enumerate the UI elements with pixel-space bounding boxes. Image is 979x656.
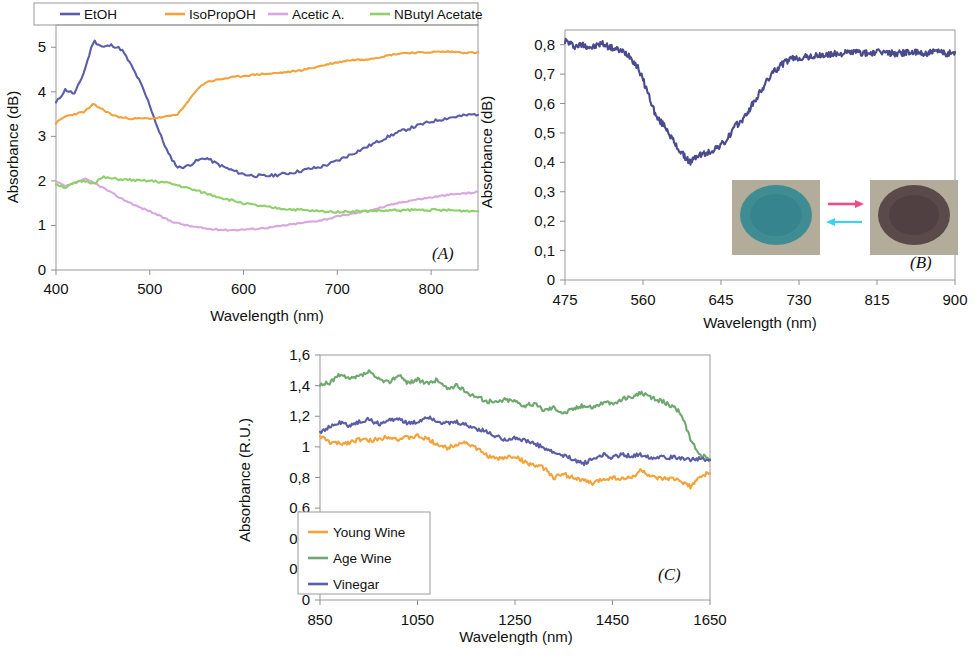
panel-a-ytick: 0 — [38, 261, 46, 278]
panel-c-xtick: 850 — [307, 611, 332, 628]
panel-b-xlabel: Wavelength (nm) — [703, 314, 817, 331]
panel-b-series-group — [565, 39, 955, 165]
panel-a-xtick: 600 — [231, 280, 256, 297]
panel-c-legend-label-1: Age Wine — [333, 551, 392, 566]
panel-a-plot-frame — [56, 25, 478, 270]
panel-a-legend-label-2: Acetic A. — [292, 7, 345, 22]
panel-a-series-2 — [56, 179, 478, 231]
panel-c-legend-label-0: Young Wine — [333, 525, 405, 540]
panel-a-frame — [56, 25, 478, 270]
panel-b-ytick: 0,1 — [534, 242, 555, 259]
panel-b-xtick: 900 — [942, 291, 967, 308]
panel-b-inset — [732, 180, 958, 255]
panel-b-ylabel: Absorbance (dB) — [478, 96, 495, 209]
panel-c-xtick: 1250 — [498, 611, 531, 628]
panel-c-ytick: 1,4 — [289, 377, 310, 394]
panel-c-ylabel: Absorbance (R.U.) — [236, 418, 253, 542]
panel-c-xtick: 1650 — [693, 611, 726, 628]
panel-a-legend-label-1: IsoPropOH — [189, 7, 256, 22]
panel-a-xtick: 500 — [137, 280, 162, 297]
panel-b-series-0 — [565, 39, 955, 165]
panel-a-series-group — [56, 41, 478, 231]
panel-b-svg: 47556064573081590000,10,20,30,40,50,60,7… — [470, 0, 979, 340]
panel-b-ytick: 0,4 — [534, 153, 555, 170]
forward-arrow-icon — [828, 200, 864, 208]
panel-a-series-0 — [56, 41, 478, 178]
panel-c-ytick: 0,8 — [289, 469, 310, 486]
panel-a-series-1 — [56, 51, 478, 123]
panel-a-xlabel: Wavelength (nm) — [210, 307, 324, 324]
panel-a-ytick: 5 — [38, 38, 46, 55]
panel-c-series-1 — [320, 370, 710, 461]
panel-a-ytick: 3 — [38, 127, 46, 144]
panel-a-chart: 400500600700800012345 (A) Wavelength (nm… — [0, 0, 490, 336]
panel-b-ytick: 0,5 — [534, 124, 555, 141]
panel-c-ytick: 1,2 — [289, 407, 310, 424]
panel-c-xlabel: Wavelength (nm) — [459, 628, 573, 645]
panel-b-chart: 47556064573081590000,10,20,30,40,50,60,7… — [470, 0, 979, 340]
panel-c-series-0 — [320, 434, 710, 488]
panel-c-xtick: 1450 — [596, 611, 629, 628]
panel-b-xtick: 730 — [786, 291, 811, 308]
reverse-arrow-icon — [826, 218, 862, 226]
panel-a-ytick: 2 — [38, 172, 46, 189]
panel-c-label: (C) — [658, 565, 681, 584]
panel-b-xtick: 815 — [864, 291, 889, 308]
panel-a-series-3 — [56, 176, 478, 212]
inset-left-sample-core — [750, 194, 802, 236]
panel-a-xtick: 400 — [43, 280, 68, 297]
panel-a-ylabel: Absorbance (dB) — [4, 91, 21, 204]
panel-a-xtick: 700 — [325, 280, 350, 297]
panel-b-xtick: 645 — [708, 291, 733, 308]
inset-right-sample-core — [889, 195, 939, 235]
panel-b-ytick: 0,7 — [534, 65, 555, 82]
panel-a-label: (A) — [432, 244, 454, 263]
panel-b-ytick: 0,8 — [534, 36, 555, 53]
panel-c-chart: 850105012501450165000,20,40,60,811,21,41… — [230, 340, 930, 656]
panel-b-label: (B) — [910, 253, 932, 272]
panel-b-ytick: 0,2 — [534, 212, 555, 229]
panel-a-legend-label-0: EtOH — [84, 7, 117, 22]
panel-b-ticks: 47556064573081590000,10,20,30,40,50,60,7… — [534, 36, 967, 308]
panel-c-svg: 850105012501450165000,20,40,60,811,21,41… — [230, 340, 930, 656]
panel-b-ytick: 0,6 — [534, 95, 555, 112]
panel-b-ytick: 0,3 — [534, 183, 555, 200]
panel-a-ytick: 4 — [38, 83, 46, 100]
panel-c-series-group — [320, 370, 710, 488]
panel-c-ytick: 1 — [302, 438, 310, 455]
panel-b-ytick: 0 — [547, 271, 555, 288]
panel-c-ytick: 1,6 — [289, 346, 310, 363]
panel-a-svg: 400500600700800012345 (A) Wavelength (nm… — [0, 0, 490, 336]
panel-c-xtick: 1050 — [401, 611, 434, 628]
panel-a-ytick: 1 — [38, 216, 46, 233]
panel-c-legend-label-2: Vinegar — [333, 577, 380, 592]
panel-b-xtick: 560 — [630, 291, 655, 308]
panel-a-xtick: 800 — [419, 280, 444, 297]
panel-b-xtick: 475 — [552, 291, 577, 308]
